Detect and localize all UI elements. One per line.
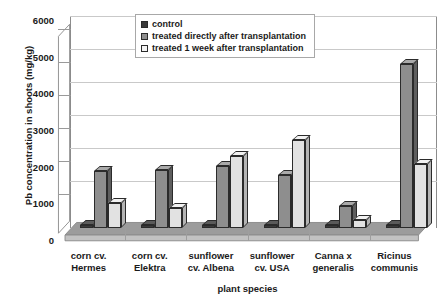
bar-face (278, 175, 291, 228)
y-axis-tick-label: 2000 (20, 161, 54, 172)
y-axis-tick-label: 0 (20, 235, 54, 246)
legend-swatch-week (141, 45, 148, 52)
cropped-title-remnant (120, 0, 320, 4)
bar (353, 220, 366, 228)
bar-face (141, 225, 154, 228)
bar-side (427, 159, 432, 228)
bar-face (202, 225, 215, 228)
x-axis-category-label-line: corn cv. (119, 250, 180, 262)
y-axis-tick-label: 5000 (20, 51, 54, 62)
bar (386, 225, 399, 228)
bar (278, 175, 291, 228)
x-axis-category-label: Canna xgeneralis (303, 250, 364, 273)
x-axis-category-label-line: cv. Albena (180, 262, 241, 274)
x-axis-category-label-line: sunflower (180, 250, 241, 262)
bar (216, 166, 229, 228)
bar (155, 170, 168, 228)
bar-face (230, 156, 243, 228)
category-separator (186, 228, 187, 241)
bar-face (400, 64, 413, 228)
bar (202, 225, 215, 228)
legend-item-label: treated directly after transplantation (152, 31, 306, 42)
bar (325, 225, 338, 228)
bar-face (414, 164, 427, 228)
bar (400, 64, 413, 228)
x-axis-category-label-line: Ricinus (364, 250, 425, 262)
x-axis-category-label: corn cv.Elektra (119, 250, 180, 273)
y-axis-tick-label: 6000 (20, 15, 54, 26)
y-axis-tick-labels: 0100020003000400050006000 (20, 14, 54, 248)
category-separator (248, 228, 249, 241)
bar (264, 225, 277, 228)
y-axis-tick-label: 3000 (20, 125, 54, 136)
bar (230, 156, 243, 228)
category-separator (309, 228, 310, 241)
bar (108, 203, 121, 228)
legend-item: control (141, 18, 306, 30)
x-axis-category-label: sunflowercv. USA (242, 250, 303, 273)
bar-group (141, 36, 182, 228)
y-axis-tick-label: 4000 (20, 88, 54, 99)
bar-face (339, 206, 352, 228)
x-axis-category-label-line: communis (364, 262, 425, 274)
bar-face (292, 140, 305, 228)
bar (414, 164, 427, 228)
x-axis-category-label-line: cv. USA (242, 262, 303, 274)
legend-item: treated 1 week after transplantation (141, 42, 306, 54)
bar (292, 140, 305, 228)
bar-group (80, 36, 121, 228)
bar (94, 171, 107, 228)
bar-group (325, 36, 366, 228)
bar-face (264, 225, 277, 228)
x-axis-title: plant species (58, 283, 437, 294)
legend-item-label: control (152, 19, 183, 30)
x-axis-category-label-line: generalis (303, 262, 364, 274)
legend-item-label: treated 1 week after transplantation (152, 43, 304, 54)
bar (169, 208, 182, 228)
category-separator (370, 228, 371, 241)
bar-group (202, 36, 243, 228)
bar (141, 225, 154, 228)
bar-side (305, 135, 310, 228)
x-axis-category-label-line: Elektra (119, 262, 180, 274)
bar-face (386, 225, 399, 228)
legend-swatch-direct (141, 33, 148, 40)
bar-face (353, 220, 366, 228)
legend-swatch-control (141, 21, 148, 28)
legend: controltreated directly after transplant… (135, 14, 315, 58)
category-separator (125, 228, 126, 241)
x-axis-category-label: sunflowercv. Albena (180, 250, 241, 273)
x-axis-category-label-line: sunflower (242, 250, 303, 262)
bar-face (155, 170, 168, 228)
x-axis-category-label: Ricinuscommunis (364, 250, 425, 273)
x-axis-category-label-line: Hermes (58, 262, 119, 274)
bar (339, 206, 352, 228)
y-axis-tick-label: 1000 (20, 198, 54, 209)
bar-face (108, 203, 121, 228)
bar-side (243, 151, 248, 228)
x-axis-category-label-line: Canna x (303, 250, 364, 262)
bar-chart: Pb concentration in shoots (mg/kg) 01000… (0, 0, 445, 302)
x-axis-category-label: corn cv.Hermes (58, 250, 119, 273)
bar-face (325, 225, 338, 228)
bar-group (264, 36, 305, 228)
x-axis-category-label-line: corn cv. (58, 250, 119, 262)
bar (80, 225, 93, 228)
bar-face (216, 166, 229, 228)
bar-group (386, 36, 427, 228)
x-axis-category-labels: corn cv.Hermescorn cv.Elektrasunflowercv… (58, 250, 437, 282)
bar-face (94, 171, 107, 228)
bar-face (169, 208, 182, 228)
legend-item: treated directly after transplantation (141, 30, 306, 42)
bar-face (80, 225, 93, 228)
